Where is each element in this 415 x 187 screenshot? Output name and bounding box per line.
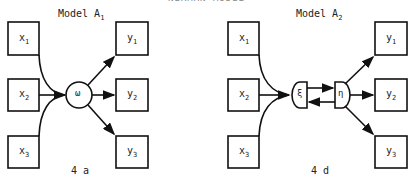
- label-y3: y3: [386, 145, 396, 156]
- label-omega: ω: [75, 88, 80, 98]
- label-x3: x3: [239, 145, 249, 156]
- panel-title: Model A1: [58, 8, 104, 19]
- label-y3: y3: [127, 145, 137, 156]
- label-eta: η: [338, 88, 343, 98]
- panel-model-a2: [228, 22, 407, 168]
- label-x2: x2: [19, 88, 29, 99]
- panel-title: Model A2: [296, 8, 342, 19]
- label-x3: x3: [19, 145, 29, 156]
- label-y1: y1: [386, 32, 396, 43]
- label-y1: y1: [127, 32, 137, 43]
- panel-caption: 4 d: [311, 165, 329, 176]
- label-x1: x1: [19, 32, 29, 43]
- label-y2: y2: [386, 88, 396, 99]
- label-y2: y2: [127, 88, 137, 99]
- label-x1: x1: [239, 32, 249, 43]
- label-xi: ξ: [297, 88, 302, 98]
- panel-caption: 4 a: [71, 165, 89, 176]
- page-header-fragment: NERMAN MODEL: [168, 0, 245, 3]
- label-x2: x2: [239, 88, 249, 99]
- diagram-canvas: [0, 0, 415, 187]
